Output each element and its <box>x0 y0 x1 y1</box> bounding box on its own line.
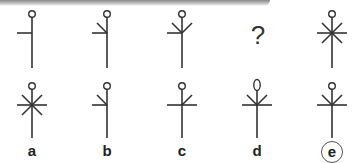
arm-up-right <box>257 95 267 105</box>
option-figure-c[interactable] <box>167 83 197 138</box>
option-label-c[interactable]: c <box>171 141 193 163</box>
arm-up-left <box>97 23 107 33</box>
arm-down-right <box>32 105 42 115</box>
head-circle-icon <box>179 83 186 90</box>
arm-up-left <box>97 95 107 105</box>
head-oval-icon <box>254 80 260 91</box>
option-figure-e[interactable] <box>317 83 347 138</box>
head-circle-icon <box>329 83 336 90</box>
option-figure-b[interactable] <box>92 83 110 138</box>
head-circle-icon <box>104 11 111 18</box>
arm-up-right <box>182 95 192 105</box>
arm-up-left <box>322 23 332 33</box>
sequence-figure-2 <box>92 11 110 68</box>
head-circle-icon <box>329 11 336 18</box>
arm-up-right <box>32 95 42 105</box>
option-label-a[interactable]: a <box>21 141 43 163</box>
arm-up-left <box>22 95 32 105</box>
missing-figure-question-mark: ? <box>243 22 273 48</box>
option-label-e-selected[interactable]: e <box>321 141 343 163</box>
sequence-figure-3 <box>167 11 192 68</box>
sequence-figure-1 <box>17 11 35 68</box>
sequence-figure-5 <box>317 11 347 68</box>
option-figure-d[interactable] <box>242 80 272 139</box>
option-label-b[interactable]: b <box>96 141 118 163</box>
arm-down-left <box>22 105 32 115</box>
head-circle-icon <box>104 83 111 90</box>
option-figure-a[interactable] <box>17 83 47 138</box>
head-circle-icon <box>29 83 36 90</box>
arm-down-left <box>322 33 332 43</box>
option-label-d[interactable]: d <box>246 141 268 163</box>
arm-up-right <box>332 95 342 105</box>
head-circle-icon <box>179 11 186 18</box>
arm-up-left <box>172 23 182 33</box>
head-circle-icon <box>29 11 36 18</box>
arm-up-left <box>322 95 332 105</box>
arm-up-right <box>332 23 342 33</box>
arm-down-right <box>332 33 342 43</box>
puzzle-canvas <box>0 0 360 163</box>
arm-up-right <box>182 23 192 33</box>
arm-up-left <box>247 95 257 105</box>
